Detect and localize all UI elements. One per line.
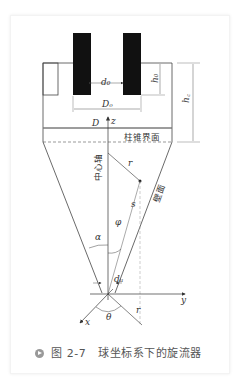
label-Do: Dₒ bbox=[101, 99, 113, 109]
label-phi: φ bbox=[115, 217, 122, 227]
figure-caption: 图 2-7 球坐标系下的旋流器 bbox=[0, 344, 237, 360]
inlet bbox=[43, 63, 58, 95]
label-center-axis: 中心轴 bbox=[93, 154, 103, 181]
cone-right-wall bbox=[115, 142, 172, 293]
label-alpha: α bbox=[95, 232, 101, 242]
label-theta: θ bbox=[106, 312, 112, 322]
label-wall: 壁面 bbox=[151, 183, 167, 203]
label-d0: d₀ bbox=[101, 77, 111, 87]
label-D: D bbox=[91, 118, 99, 128]
label-r2: r bbox=[136, 305, 141, 315]
caption-text: 球坐标系下的旋流器 bbox=[98, 347, 202, 360]
play-bullet-icon bbox=[35, 349, 44, 358]
label-r: r bbox=[128, 158, 133, 168]
label-du: dᵤ bbox=[114, 274, 124, 284]
vortex-finder-right bbox=[123, 33, 141, 95]
cylinder-body bbox=[43, 63, 172, 128]
label-y: y bbox=[180, 295, 187, 305]
label-hc: h꜀ bbox=[181, 93, 191, 103]
label-interface: 柱锥界面 bbox=[124, 132, 160, 142]
label-z: z bbox=[110, 116, 116, 126]
vortex-finder-left bbox=[73, 33, 91, 95]
label-s: s bbox=[131, 199, 136, 209]
hydrocyclone-diagram: d₀ h₀ Dₒ h꜀ D z 柱锥界面 中心轴 壁面 r s φ α dᵤ y… bbox=[0, 0, 237, 384]
label-h0: h₀ bbox=[150, 73, 160, 83]
caption-number: 图 2-7 bbox=[51, 347, 86, 360]
label-x: x bbox=[85, 317, 90, 327]
